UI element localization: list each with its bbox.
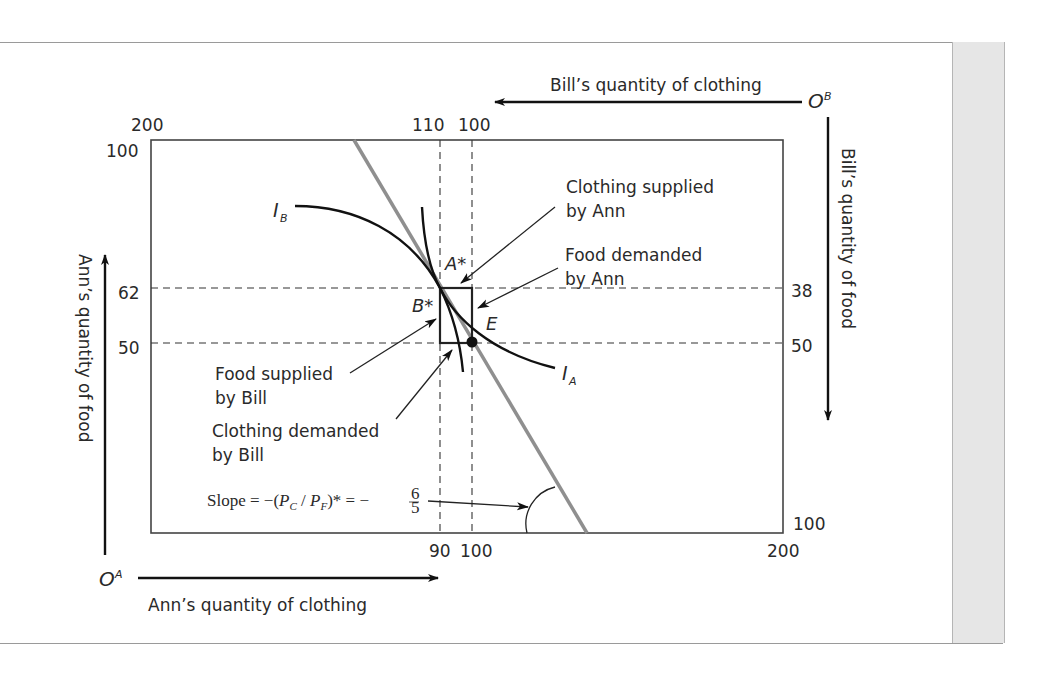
- price-line: [354, 140, 587, 533]
- svg-text:Clothing demanded: Clothing demanded: [212, 421, 379, 441]
- edgeworth-box-diagram: Bill’s quantity of clothing Ann’s quanti…: [0, 0, 1042, 676]
- label-ia: I A: [562, 362, 577, 388]
- tick-top-200: 200: [131, 115, 163, 135]
- indifference-curve-ib: [295, 206, 463, 372]
- annotation-food-demanded-by-ann: Food demanded by Ann: [565, 245, 702, 289]
- tick-right-100: 100: [793, 514, 825, 534]
- annotation-clothing-demanded-by-bill: Clothing demanded by Bill: [212, 421, 379, 465]
- svg-text:Slope = −(PC / PF)* = −: Slope = −(PC / PF)* = −: [207, 491, 369, 512]
- svg-text:O: O: [808, 89, 824, 113]
- svg-text:by Ann: by Ann: [565, 269, 624, 289]
- tick-top-100: 100: [458, 115, 490, 135]
- dashed-guides: [151, 140, 783, 533]
- svg-text:B: B: [824, 90, 832, 103]
- svg-text:Food demanded: Food demanded: [565, 245, 702, 265]
- tick-top-110: 110: [412, 115, 444, 135]
- tick-bottom-100: 100: [460, 541, 492, 561]
- annotation-food-supplied-by-bill: Food supplied by Bill: [215, 364, 333, 408]
- tick-left-50: 50: [118, 338, 140, 358]
- tick-bottom-90: 90: [429, 541, 451, 561]
- tick-left-62: 62: [118, 283, 140, 303]
- arrow-slope: [428, 501, 528, 507]
- tick-right-38: 38: [791, 281, 813, 301]
- svg-text:5: 5: [411, 498, 420, 517]
- slope-angle-arc: [526, 487, 555, 533]
- origin-b: O B: [808, 89, 832, 113]
- annotation-arrows: [350, 207, 558, 507]
- svg-text:by Bill: by Bill: [212, 445, 264, 465]
- svg-text:I: I: [273, 199, 279, 221]
- ann-food-label: Ann’s quantity of food: [75, 254, 95, 443]
- origin-a: O A: [99, 567, 123, 591]
- edgeworth-box: [151, 140, 783, 533]
- svg-text:I: I: [562, 362, 568, 384]
- svg-text:by Bill: by Bill: [215, 388, 267, 408]
- svg-text:Clothing supplied: Clothing supplied: [566, 177, 714, 197]
- label-ib: I B: [273, 199, 288, 225]
- svg-text:O: O: [99, 567, 115, 591]
- tick-right-50: 50: [791, 336, 813, 356]
- label-e: E: [486, 313, 498, 334]
- arrow-clothing-supplied-by-ann: [461, 207, 555, 283]
- annotation-clothing-supplied-by-ann: Clothing supplied by Ann: [566, 177, 714, 221]
- tick-left-100: 100: [106, 141, 138, 161]
- svg-text:A: A: [568, 375, 577, 388]
- svg-text:B: B: [280, 212, 288, 225]
- bill-food-label: Bill’s quantity of food: [838, 148, 858, 329]
- bill-clothing-label: Bill’s quantity of clothing: [550, 75, 762, 95]
- svg-text:by Ann: by Ann: [566, 201, 625, 221]
- tick-bottom-200: 200: [767, 541, 799, 561]
- endowment-point-e: [467, 337, 478, 348]
- arrow-food-supplied-by-bill: [350, 319, 436, 373]
- label-a-star: A*: [444, 253, 466, 274]
- label-b-star: B*: [412, 295, 433, 316]
- svg-text:Food supplied: Food supplied: [215, 364, 333, 384]
- svg-text:A: A: [114, 568, 123, 581]
- slope-annotation: Slope = −(PC / PF)* = − 6 5: [207, 484, 420, 517]
- arrow-clothing-demanded-by-bill: [396, 350, 452, 419]
- ann-clothing-label: Ann’s quantity of clothing: [148, 595, 367, 615]
